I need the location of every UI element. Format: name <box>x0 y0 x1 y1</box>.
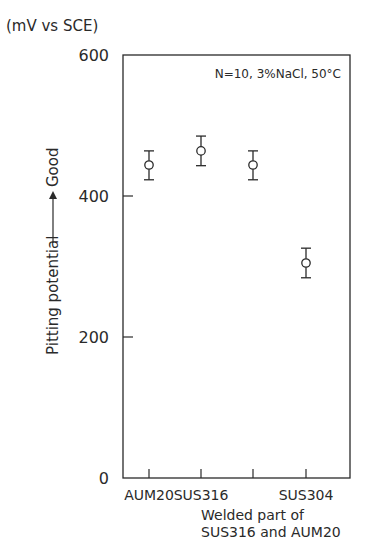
data-point <box>301 248 311 278</box>
data-point <box>144 151 154 180</box>
y-axis-title: Pitting potential <box>44 236 62 355</box>
open-circle-marker <box>249 161 257 169</box>
x-category-label: AUM20 <box>124 487 174 503</box>
y-tick-label: 0 <box>99 469 109 488</box>
data-point <box>196 136 206 166</box>
open-circle-marker <box>302 259 310 267</box>
unit-label: (mV vs SCE) <box>6 17 98 35</box>
x-category-label-welded: Welded part of <box>201 507 305 523</box>
plot-frame <box>123 55 350 478</box>
x-category-label: SUS304 <box>279 487 334 503</box>
open-circle-marker <box>145 161 153 169</box>
axis-ticks: 0200400600 <box>78 46 306 488</box>
data-point <box>248 151 258 180</box>
y-tick-label: 200 <box>78 328 109 347</box>
y-tick-label: 600 <box>78 46 109 65</box>
x-category-label: SUS316 <box>174 487 229 503</box>
up-arrow-icon <box>49 191 57 243</box>
plot-area <box>123 55 350 478</box>
data-points <box>144 136 311 278</box>
pitting-potential-chart: (mV vs SCE) N=10, 3%NaCl, 50°C Pitting p… <box>0 0 368 555</box>
x-category-label-welded: SUS316 and AUM20 <box>201 524 341 540</box>
x-axis-labels: AUM20SUS316SUS304Welded part ofSUS316 an… <box>124 487 341 540</box>
y-axis-label: Pitting potential Good <box>44 148 62 356</box>
annotation: N=10, 3%NaCl, 50°C <box>215 67 341 81</box>
y-axis-good: Good <box>44 148 62 188</box>
open-circle-marker <box>197 147 205 155</box>
y-tick-label: 400 <box>78 187 109 206</box>
